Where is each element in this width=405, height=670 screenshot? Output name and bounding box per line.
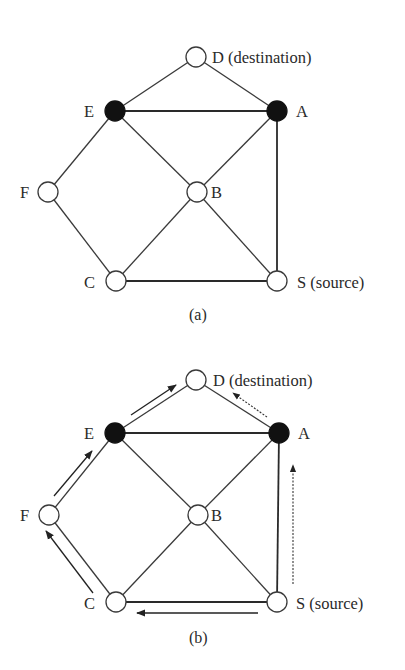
label-d: D (destination)	[212, 48, 311, 67]
node-s	[267, 592, 287, 612]
label-f: F	[20, 506, 29, 525]
node-c	[106, 271, 126, 291]
node-s	[267, 271, 287, 291]
edges-a	[48, 57, 277, 281]
edge-a-b	[198, 433, 279, 515]
label-a: A	[298, 424, 310, 443]
edge-e-b	[115, 111, 197, 192]
node-a	[267, 101, 287, 121]
edges-b	[49, 380, 279, 602]
edge-b-c	[116, 515, 198, 602]
label-s: S (source)	[296, 594, 363, 613]
arrow-f-to-e	[54, 451, 92, 496]
label-e: E	[84, 102, 94, 121]
node-d	[186, 370, 206, 390]
arrow-a-to-d	[233, 393, 267, 417]
edge-e-d	[115, 57, 196, 111]
caption-a: (a)	[189, 306, 207, 324]
edge-b-c	[116, 192, 197, 281]
label-b: B	[211, 183, 222, 202]
label-d: D (destination)	[213, 371, 312, 390]
edge-e-b	[115, 433, 198, 515]
label-f: F	[20, 183, 29, 202]
label-a: A	[296, 102, 308, 121]
labels-a: D (destination) E A F B C S (source)	[20, 48, 364, 292]
edge-a-s	[277, 433, 279, 602]
node-b	[187, 182, 207, 202]
nodes-a	[38, 47, 287, 291]
label-b: B	[211, 506, 222, 525]
label-e: E	[84, 424, 94, 443]
node-f	[39, 505, 59, 525]
label-c: C	[84, 594, 95, 613]
node-f	[38, 182, 58, 202]
labels-b: D (destination) E A F B C S (source)	[20, 371, 363, 613]
node-a	[269, 423, 289, 443]
edge-b-s	[197, 192, 277, 281]
caption-b: (b)	[189, 629, 208, 647]
routing-diagram: D (destination) E A F B C S (source) (a)	[0, 0, 405, 670]
label-c: C	[84, 273, 95, 292]
node-e	[105, 423, 125, 443]
arrow-e-to-d	[131, 385, 176, 415]
panel-a: D (destination) E A F B C S (source) (a)	[20, 47, 364, 324]
node-c	[106, 592, 126, 612]
label-s: S (source)	[297, 273, 364, 292]
node-b	[188, 505, 208, 525]
node-d	[186, 47, 206, 67]
node-e	[105, 101, 125, 121]
edge-e-f	[49, 433, 115, 515]
edge-a-b	[197, 111, 277, 192]
edge-f-c	[48, 192, 116, 281]
edge-b-s	[198, 515, 277, 602]
edge-e-d	[115, 380, 196, 433]
edge-f-c	[49, 515, 116, 602]
panel-b: D (destination) E A F B C S (source) (b)	[20, 370, 363, 647]
edge-e-f	[48, 111, 115, 192]
